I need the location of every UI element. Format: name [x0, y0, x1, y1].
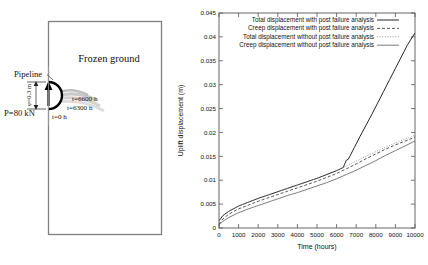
x-tick-label: 6000 — [330, 231, 344, 238]
pipeline-label: Pipeline — [14, 69, 42, 79]
x-tick-label: 0 — [217, 231, 221, 238]
x-tick-label: 7000 — [349, 231, 363, 238]
legend-label-3: Creep displacement without post failure … — [239, 41, 374, 49]
x-tick-label: 4000 — [291, 231, 305, 238]
x-tick-label: 8000 — [369, 231, 383, 238]
x-tick-label: 2000 — [251, 231, 265, 238]
y-tick-label: 0.02 — [204, 129, 217, 136]
time-label-0: t=0 h — [52, 113, 67, 121]
y-tick-label: 0.025 — [201, 105, 217, 112]
uplift-displacement-plot: 0100020003000400050006000700080009000100… — [172, 0, 428, 265]
legend-label-0: Total displacement with post failure ana… — [252, 16, 374, 24]
y-tick-label: 0.015 — [201, 153, 217, 160]
legend-label-1: Creep displacement with post failure ana… — [248, 24, 374, 32]
y-axis-title: Uplift displacement (m) — [177, 85, 185, 157]
y-tick-label: 0.045 — [201, 9, 217, 16]
figure-root: Frozen ground — [0, 0, 428, 265]
chart-canvas: 0100020003000400050006000700080009000100… — [172, 0, 428, 265]
y-tick-label: 0.04 — [204, 33, 217, 40]
frozen-ground-label: Frozen ground — [78, 53, 140, 64]
time-label-6300: t=6300 h — [67, 104, 93, 112]
x-tick-label: 10000 — [406, 231, 424, 238]
x-tick-label: 9000 — [389, 231, 403, 238]
y-tick-label: 0.005 — [201, 200, 217, 207]
x-axis-title: Time (hours) — [297, 243, 336, 251]
time-label-6600: t=6600 h — [72, 95, 98, 103]
y-tick-label: 0.03 — [204, 81, 217, 88]
x-tick-label: 1000 — [232, 231, 246, 238]
y-tick-label: 0.01 — [204, 176, 217, 183]
y-tick-label: 0.035 — [201, 57, 217, 64]
legend-label-2: Total displacement without post failure … — [243, 33, 374, 41]
load-label: P=80 kN — [4, 108, 36, 118]
diameter-label: φ=0.3 m — [25, 84, 32, 106]
x-tick-label: 5000 — [310, 231, 324, 238]
y-tick-label: 0 — [213, 224, 217, 231]
x-tick-label: 3000 — [271, 231, 285, 238]
